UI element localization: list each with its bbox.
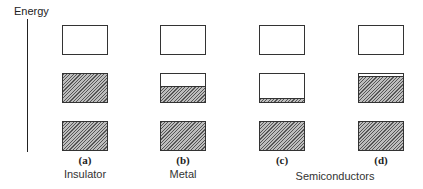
column-b-caption: Metal — [153, 168, 213, 180]
column-d-upper-band — [358, 25, 404, 55]
column-d-lower-band — [358, 121, 404, 151]
column-a-upper-band — [62, 25, 108, 55]
column-b-middle-band — [160, 73, 206, 103]
half-filled-region — [161, 86, 205, 102]
column-b-letter: (b) — [160, 154, 206, 166]
column-c-letter: (c) — [259, 154, 305, 166]
column-b-upper-band — [160, 25, 206, 55]
energy-axis-label: Energy — [14, 5, 49, 17]
filled-region — [359, 122, 403, 150]
column-a-lower-band — [62, 121, 108, 151]
column-a-letter: (a) — [62, 154, 108, 166]
filled-region — [63, 122, 107, 150]
column-c-middle-band — [259, 73, 305, 103]
column-c-upper-band — [259, 25, 305, 55]
energy-axis-line — [27, 19, 28, 152]
column-b-lower-band — [160, 121, 206, 151]
column-d-letter: (d) — [358, 154, 404, 166]
nearly-full-region — [359, 76, 403, 102]
column-c-lower-band — [259, 121, 305, 151]
filled-region — [260, 122, 304, 150]
thin-filled-region — [260, 98, 304, 102]
column-a-caption: Insulator — [55, 168, 115, 180]
filled-region — [63, 74, 107, 102]
filled-region — [161, 122, 205, 150]
column-d-middle-band — [358, 73, 404, 103]
semiconductors-caption: Semiconductors — [280, 170, 390, 182]
column-a-middle-band — [62, 73, 108, 103]
